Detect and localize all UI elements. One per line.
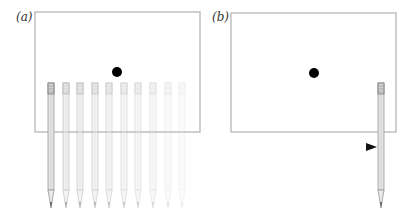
pencil-icon [150,83,156,208]
fixation-dot [112,67,122,77]
pencil-icon [92,83,98,208]
pencil-icon [121,83,127,208]
pencil-icon [165,83,171,208]
pencil-icon [48,83,54,208]
figure-canvas [0,0,411,219]
pencil-icon [378,83,384,208]
fixation-dot [309,68,319,78]
pencil-icon [106,83,112,208]
pencil-icon [77,83,83,208]
pencil-icon [179,83,185,208]
panel-b [231,13,396,208]
arrowhead-icon [366,143,377,151]
pencil-icon [63,83,69,208]
panel-a [35,12,200,208]
pencil-icon [135,83,141,208]
